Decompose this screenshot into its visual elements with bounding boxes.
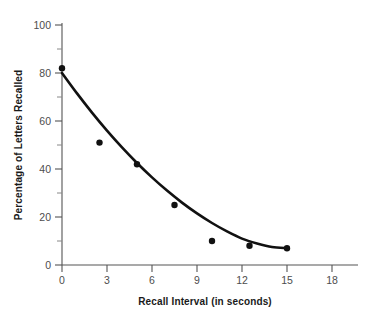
chart-figure: 100 80 60 40 20 0 Percentage of Letters …: [0, 0, 371, 319]
y-tick-label-0: 0: [45, 259, 51, 271]
data-point: [209, 238, 215, 244]
data-point: [284, 245, 290, 251]
x-tick-label-3: 3: [104, 274, 110, 286]
x-tick-label-9: 9: [194, 274, 200, 286]
plot-background: [0, 0, 371, 319]
y-tick-label-60: 60: [39, 115, 51, 127]
y-tick-label-20: 20: [39, 211, 51, 223]
data-point: [246, 243, 252, 249]
y-axis-title: Percentage of Letters Recalled: [13, 70, 24, 221]
x-tick-label-6: 6: [149, 274, 155, 286]
x-tick-label-18: 18: [326, 274, 338, 286]
data-point: [96, 139, 102, 145]
y-tick-label-40: 40: [39, 163, 51, 175]
x-tick-label-12: 12: [236, 274, 248, 286]
y-tick-label-80: 80: [39, 67, 51, 79]
data-point: [59, 65, 65, 71]
x-tick-label-15: 15: [281, 274, 293, 286]
data-point: [171, 202, 177, 208]
y-tick-label-100: 100: [33, 19, 51, 31]
x-axis-title: Recall Interval (in seconds): [138, 296, 272, 307]
scatter-plot-svg: 100 80 60 40 20 0 Percentage of Letters …: [0, 0, 371, 319]
data-point: [134, 161, 140, 167]
x-tick-label-0: 0: [59, 274, 65, 286]
